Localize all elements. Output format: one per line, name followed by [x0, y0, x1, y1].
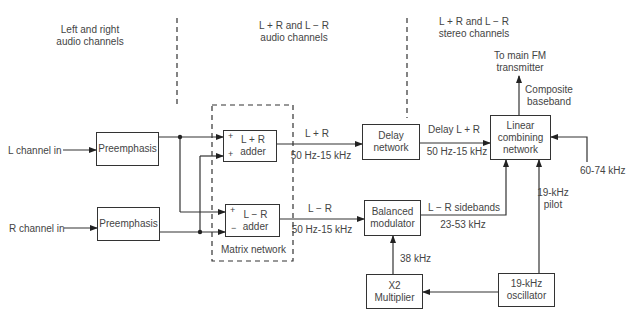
delay-network-block: Delay network — [362, 124, 420, 160]
matrix-network-label: Matrix network — [221, 244, 286, 256]
balanced-modulator-block: Balanced modulator — [364, 200, 421, 236]
composite-baseband-label: Composite baseband — [525, 84, 573, 108]
sum-band-label: 50 Hz-15 kHz — [291, 150, 352, 162]
input-label-left: L channel in — [8, 145, 62, 157]
pilot-label: 19-kHz pilot — [537, 187, 569, 211]
sidebands-band-label: 23-53 kHz — [440, 219, 486, 231]
diff-plus-sign: + — [230, 205, 235, 215]
matrix-network-outline — [212, 105, 293, 261]
section-label-left: Left and right audio channels — [56, 24, 123, 48]
section-label-middle: L + R and L − R audio channels — [259, 20, 329, 44]
carrier-label: 38 kHz — [400, 253, 431, 265]
section-label-right: L + R and L − R stereo channels — [439, 16, 510, 40]
delayed-sum-label: Delay L + R — [428, 124, 480, 136]
diff-signal-label: L − R — [308, 203, 332, 215]
linear-combining-network-block: Linear combining network — [490, 115, 551, 160]
sidebands-label: L − R sidebands — [428, 202, 500, 214]
preemphasis-left-block: Preemphasis — [96, 132, 159, 166]
junction-dot-right — [198, 230, 202, 234]
sum-plus-sign-a: + — [228, 131, 233, 141]
sum-plus-sign-b: + — [228, 149, 233, 159]
diff-minus-sign: − — [231, 223, 236, 233]
preemphasis-right-block: Preemphasis — [97, 207, 160, 241]
oscillator-block: 19-kHz oscillator — [498, 273, 555, 307]
diff-band-label: 50 Hz-15 kHz — [292, 224, 353, 236]
junction-dot-left — [178, 135, 182, 139]
delayed-band-label: 50 Hz-15 kHz — [427, 146, 488, 158]
x2-multiplier-block: X2 Multiplier — [366, 274, 423, 309]
input-label-subcarrier: 60-74 kHz — [580, 165, 626, 177]
sum-signal-label: L + R — [305, 128, 329, 140]
input-label-right: R channel in — [9, 223, 65, 235]
output-label: To main FM transmitter — [494, 50, 546, 74]
